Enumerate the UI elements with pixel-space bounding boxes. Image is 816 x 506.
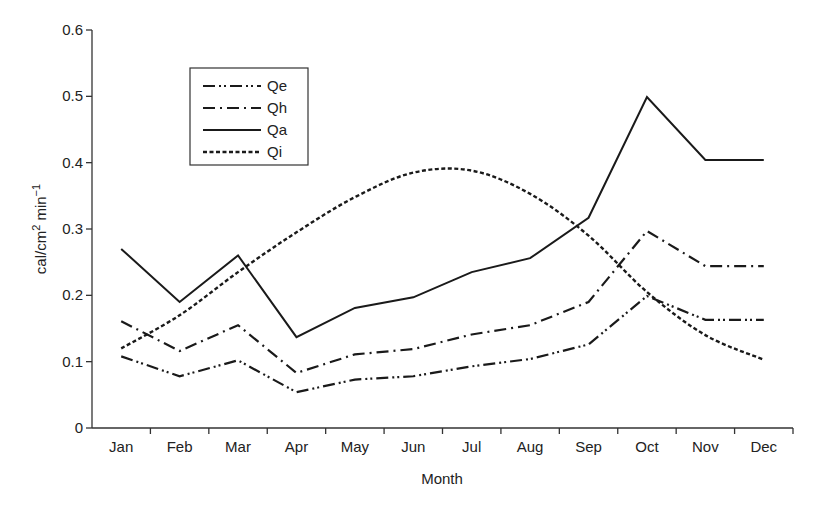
x-tick-label-apr: Apr bbox=[285, 438, 308, 455]
legend-box bbox=[190, 68, 308, 165]
y-tick-label: 0.5 bbox=[62, 87, 83, 104]
legend-label-qa: Qa bbox=[267, 121, 288, 138]
y-tick-label: 0.2 bbox=[62, 286, 83, 303]
x-tick-label-may: May bbox=[341, 438, 370, 455]
x-tick-label-feb: Feb bbox=[167, 438, 193, 455]
y-tick-label: 0.6 bbox=[62, 21, 83, 38]
series-line-qi bbox=[121, 169, 764, 360]
x-tick-label-jun: Jun bbox=[401, 438, 425, 455]
series-line-qe bbox=[121, 296, 764, 392]
legend-label-qi: Qi bbox=[267, 143, 282, 160]
x-tick-label-dec: Dec bbox=[750, 438, 777, 455]
x-tick-label-jul: Jul bbox=[462, 438, 481, 455]
y-axis: 00.10.20.30.40.50.6 bbox=[62, 21, 92, 436]
y-tick-label: 0.4 bbox=[62, 154, 83, 171]
y-tick-label: 0 bbox=[75, 419, 83, 436]
legend: QeQhQaQi bbox=[190, 68, 308, 165]
x-tick-label-nov: Nov bbox=[692, 438, 719, 455]
legend-label-qe: Qe bbox=[267, 77, 287, 94]
series-line-qh bbox=[121, 231, 764, 373]
y-axis-title: cal/cm2 min−1 bbox=[30, 184, 49, 274]
x-tick-label-mar: Mar bbox=[225, 438, 251, 455]
legend-label-qh: Qh bbox=[267, 99, 287, 116]
x-axis: JanFebMarAprMayJunJulAugSepOctNovDec bbox=[92, 428, 793, 455]
y-tick-label: 0.3 bbox=[62, 220, 83, 237]
x-tick-label-aug: Aug bbox=[517, 438, 544, 455]
x-tick-label-oct: Oct bbox=[635, 438, 659, 455]
x-tick-label-sep: Sep bbox=[575, 438, 602, 455]
y-tick-label: 0.1 bbox=[62, 353, 83, 370]
x-tick-label-jan: Jan bbox=[109, 438, 133, 455]
line-chart: 00.10.20.30.40.50.6 JanFebMarAprMayJunJu… bbox=[0, 0, 816, 506]
x-axis-title: Month bbox=[421, 470, 463, 487]
